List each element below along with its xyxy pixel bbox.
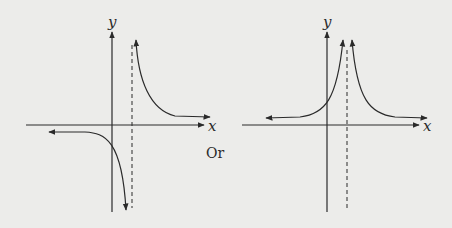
left-upper-branch xyxy=(136,40,210,117)
right-y-label: y xyxy=(322,13,332,31)
left-graph: y x xyxy=(26,13,217,212)
left-y-label: y xyxy=(107,13,117,31)
left-x-label: x xyxy=(208,117,217,135)
right-graph: y x xyxy=(242,13,432,212)
right-left-branch xyxy=(266,40,343,118)
or-separator: Or xyxy=(206,145,224,161)
right-x-label: x xyxy=(423,117,432,135)
left-lower-branch xyxy=(49,132,126,210)
right-right-branch xyxy=(352,40,427,118)
diagram-canvas: y x y x xyxy=(0,0,452,228)
